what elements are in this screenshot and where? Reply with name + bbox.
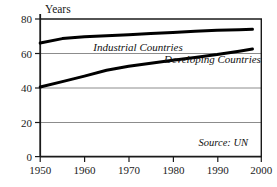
x-tick-label-1950: 1950 [29, 164, 52, 176]
series-label-developing-countries: Developing Countries [163, 53, 261, 65]
x-tick-label-2000: 2000 [250, 164, 273, 176]
y-tick-label-60: 60 [21, 48, 33, 60]
life-expectancy-line-chart: 80 60 40 20 0 1950 1960 1970 1980 1990 2… [0, 0, 277, 187]
y-tick-label-20: 20 [21, 117, 33, 129]
x-tick-label-1960: 1960 [74, 164, 97, 176]
y-tick-label-80: 80 [21, 13, 33, 25]
series-label-industrial-countries: Industrial Countries [92, 41, 183, 53]
chart-container: 80 60 40 20 0 1950 1960 1970 1980 1990 2… [0, 0, 277, 187]
y-axis-title: Years [45, 3, 71, 15]
x-tick-label-1970: 1970 [118, 164, 141, 176]
x-tick-label-1990: 1990 [207, 164, 230, 176]
y-tick-label-40: 40 [21, 82, 33, 94]
chart-background [0, 0, 277, 187]
x-tick-label-1980: 1980 [162, 164, 185, 176]
source-annotation: Source: UN [199, 137, 249, 148]
y-tick-label-0: 0 [27, 151, 33, 163]
